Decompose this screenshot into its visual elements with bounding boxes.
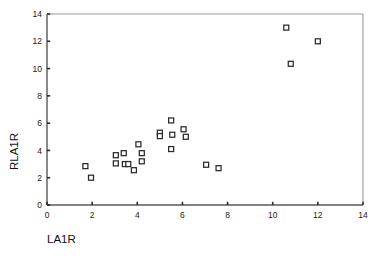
data-point-marker xyxy=(216,166,221,171)
y-tick-label: 4 xyxy=(37,146,42,156)
y-tick-label: 12 xyxy=(33,36,43,46)
data-point-marker xyxy=(181,127,186,132)
data-point-marker xyxy=(121,151,126,156)
data-point-marker xyxy=(89,175,94,180)
data-point-marker xyxy=(169,147,174,152)
y-tick-label: 10 xyxy=(33,64,43,74)
x-tick-label: 10 xyxy=(268,210,278,220)
data-point-marker xyxy=(157,134,162,139)
x-tick-label: 6 xyxy=(180,210,185,220)
x-axis-title: LA1R xyxy=(47,233,76,245)
y-tick-label: 6 xyxy=(37,118,42,128)
x-tick-label: 0 xyxy=(45,210,50,220)
data-point-marker xyxy=(126,162,131,167)
x-tick-label: 4 xyxy=(135,210,140,220)
data-point-marker xyxy=(169,118,174,123)
data-point-marker xyxy=(113,161,118,166)
data-point-marker xyxy=(288,61,293,66)
y-axis-title: RLA1R xyxy=(8,133,20,170)
data-point-marker xyxy=(315,39,320,44)
data-point-marker xyxy=(113,153,118,158)
x-tick-label: 8 xyxy=(225,210,230,220)
scatter-plot-figure: 02468101214 02468101214 LA1R RLA1R xyxy=(0,0,384,259)
y-tick-label: 0 xyxy=(37,200,42,210)
data-point-marker xyxy=(131,168,136,173)
data-point-marker xyxy=(83,164,88,169)
data-point-marker xyxy=(139,159,144,164)
data-point-marker xyxy=(204,162,209,167)
y-tick-label: 8 xyxy=(37,91,42,101)
data-point-marker xyxy=(183,134,188,139)
data-point-marker xyxy=(284,25,289,30)
data-points xyxy=(83,25,320,180)
y-tick-label: 14 xyxy=(33,9,43,19)
x-tick-label: 12 xyxy=(313,210,323,220)
plot-canvas: 02468101214 02468101214 LA1R RLA1R xyxy=(0,0,384,259)
y-tick-label: 2 xyxy=(37,173,42,183)
x-tick-label: 2 xyxy=(90,210,95,220)
x-tick-label: 14 xyxy=(358,210,368,220)
data-point-marker xyxy=(136,142,141,147)
data-point-marker xyxy=(170,132,175,137)
data-point-marker xyxy=(139,151,144,156)
